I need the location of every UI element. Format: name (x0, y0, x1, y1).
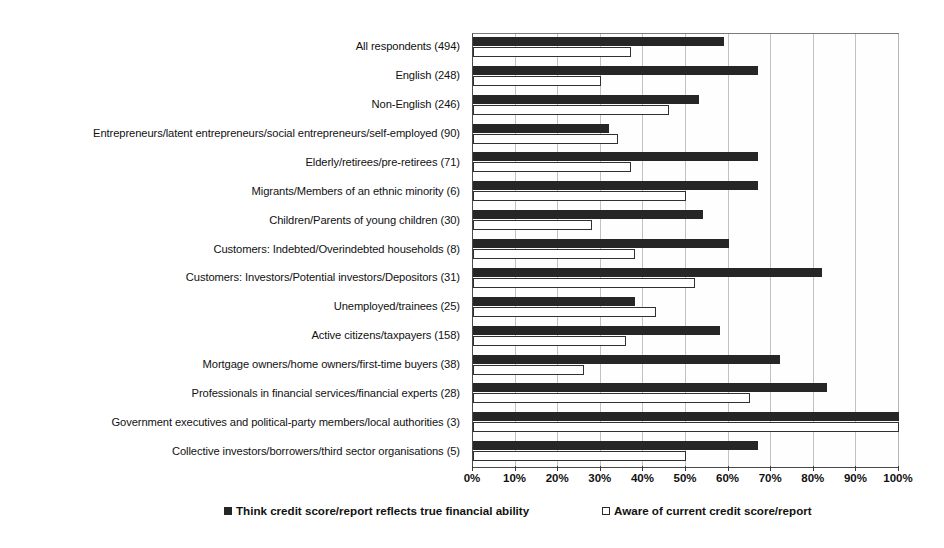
legend-item-think-credit-score: Think credit score/report reflects true … (224, 504, 529, 517)
bar-group (473, 352, 899, 381)
filled-square-marker-icon (224, 507, 232, 515)
x-tick-40% (642, 466, 643, 471)
bar-series-aware-credit-score (473, 393, 750, 403)
bar-group (473, 294, 899, 323)
x-tick-label: 50% (673, 472, 696, 484)
x-tick-label: 80% (801, 472, 824, 484)
bar-series-aware-credit-score (473, 47, 631, 57)
bar-group (473, 409, 899, 438)
x-axis-tick-labels: 0%10%20%30%40%50%60%70%80%90%100% (472, 472, 899, 488)
x-tick-90% (855, 466, 856, 471)
x-tick-label: 10% (503, 472, 526, 484)
bar-series-think-credit-score (473, 383, 827, 392)
legend-label-series-1: Think credit score/report reflects true … (236, 504, 529, 517)
x-tick-70% (770, 466, 771, 471)
bar-series-aware-credit-score (473, 105, 669, 115)
category-label: Unemployed/trainees (25) (0, 300, 460, 312)
category-label: Migrants/Members of an ethnic minority (… (0, 185, 460, 197)
bar-series-aware-credit-score (473, 451, 686, 461)
x-tick-30% (600, 466, 601, 471)
bar-series-think-credit-score (473, 441, 758, 450)
category-label: Collective investors/borrowers/third sec… (0, 445, 460, 457)
bar-series-think-credit-score (473, 210, 703, 219)
bar-series-think-credit-score (473, 355, 780, 364)
bar-series-aware-credit-score (473, 249, 635, 259)
bar-group (473, 265, 899, 294)
bar-series-aware-credit-score (473, 278, 695, 288)
x-tick-label: 20% (546, 472, 569, 484)
legend-item-aware-credit-score: Aware of current credit score/report (602, 504, 812, 517)
bar-series-aware-credit-score (473, 76, 601, 86)
category-label: Government executives and political-part… (0, 416, 460, 428)
x-tick-label: 40% (631, 472, 654, 484)
bar-series-aware-credit-score (473, 220, 592, 230)
bar-chart: All respondents (494)English (248)Non-En… (0, 0, 944, 548)
x-tick-label: 100% (883, 472, 912, 484)
bar-series-aware-credit-score (473, 336, 626, 346)
chart-legend: Think credit score/report reflects true … (0, 504, 944, 524)
x-tick-80% (813, 466, 814, 471)
bar-group (473, 207, 899, 236)
x-tick-0% (472, 466, 473, 471)
category-label: Elderly/retirees/pre-retirees (71) (0, 156, 460, 168)
x-tick-label: 30% (588, 472, 611, 484)
bar-series-aware-credit-score (473, 365, 584, 375)
category-label: English (248) (0, 69, 460, 81)
bar-series-think-credit-score (473, 412, 899, 421)
bar-series-think-credit-score (473, 268, 822, 277)
category-label: Customers: Investors/Potential investors… (0, 271, 460, 283)
bar-group (473, 178, 899, 207)
bar-group (473, 236, 899, 265)
x-tick-60% (728, 466, 729, 471)
bar-series-aware-credit-score (473, 162, 631, 172)
x-tick-50% (685, 466, 686, 471)
x-tick-100% (898, 466, 899, 471)
bar-group (473, 380, 899, 409)
bar-group (473, 438, 899, 467)
category-label: Non-English (246) (0, 98, 460, 110)
bar-series-think-credit-score (473, 181, 758, 190)
x-tick-label: 90% (844, 472, 867, 484)
bar-series-think-credit-score (473, 95, 699, 104)
bar-group (473, 92, 899, 121)
bar-series-aware-credit-score (473, 307, 656, 317)
category-label: Active citizens/taxpayers (158) (0, 329, 460, 341)
category-label: Professionals in financial services/fina… (0, 387, 460, 399)
bar-series-think-credit-score (473, 239, 729, 248)
category-axis-labels: All respondents (494)English (248)Non-En… (0, 33, 466, 466)
bar-group (473, 34, 899, 63)
category-label: All respondents (494) (0, 40, 460, 52)
bar-series-aware-credit-score (473, 422, 899, 432)
x-tick-label: 60% (716, 472, 739, 484)
bar-series-think-credit-score (473, 152, 758, 161)
bar-series-think-credit-score (473, 326, 720, 335)
bar-series-think-credit-score (473, 297, 635, 306)
bar-series-think-credit-score (473, 37, 724, 46)
x-tick-20% (557, 466, 558, 471)
bar-series-think-credit-score (473, 124, 609, 133)
bar-group (473, 63, 899, 92)
category-label: Children/Parents of young children (30) (0, 214, 460, 226)
x-tick-label: 0% (464, 472, 481, 484)
bar-group (473, 121, 899, 150)
category-label: Mortgage owners/home owners/first-time b… (0, 358, 460, 370)
category-label: Customers: Indebted/Overindebted househo… (0, 243, 460, 255)
bar-series-aware-credit-score (473, 191, 686, 201)
legend-label-series-2: Aware of current credit score/report (614, 504, 812, 517)
bar-series-aware-credit-score (473, 134, 618, 144)
bar-group (473, 323, 899, 352)
x-tick-10% (515, 466, 516, 471)
plot-area (472, 33, 899, 468)
bar-group (473, 149, 899, 178)
bar-series-think-credit-score (473, 66, 758, 75)
x-tick-label: 70% (759, 472, 782, 484)
category-label: Entrepreneurs/latent entrepreneurs/socia… (0, 127, 460, 139)
hollow-square-marker-icon (602, 507, 610, 515)
